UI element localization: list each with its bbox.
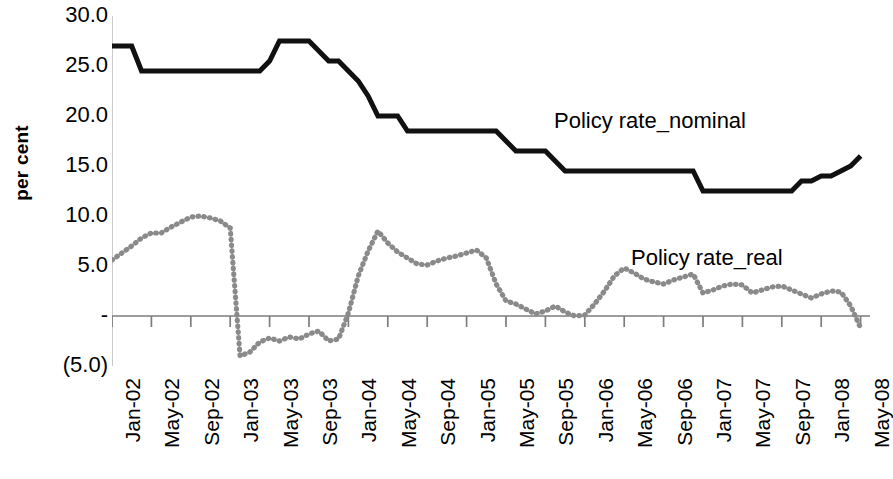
- x-tick-label: Jan-06: [595, 378, 616, 442]
- x-tick-label: Sep-02: [201, 378, 222, 446]
- x-tick-label: May-06: [634, 378, 655, 448]
- x-tick-label: Sep-03: [319, 378, 340, 446]
- x-tick-label: May-08: [871, 378, 892, 448]
- series-label-real: Policy rate_real: [631, 247, 783, 269]
- x-tick-label: May-02: [161, 378, 182, 448]
- x-tick-label: Sep-07: [792, 378, 813, 446]
- x-tick-label: May-04: [398, 378, 419, 448]
- series-label-nominal: Policy rate_nominal: [554, 110, 746, 132]
- x-tick-label: Sep-04: [437, 378, 458, 446]
- x-tick-label: Jan-02: [122, 378, 143, 442]
- x-tick-label: May-07: [752, 378, 773, 448]
- x-tick-label: Sep-05: [555, 378, 576, 446]
- x-tick-label: May-05: [516, 378, 537, 448]
- x-tick-label: Jan-08: [831, 378, 852, 442]
- x-tick-label: Jan-04: [358, 378, 379, 442]
- x-tick-label: May-03: [280, 378, 301, 448]
- x-tick-label: Sep-06: [674, 378, 695, 446]
- x-tick-label: Jan-03: [240, 378, 261, 442]
- x-tick-label: Jan-07: [713, 378, 734, 442]
- x-tick-label: Jan-05: [477, 378, 498, 442]
